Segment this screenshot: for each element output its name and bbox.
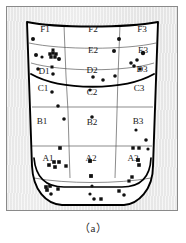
zone-label-b3: B3: [133, 116, 144, 126]
zone-label-b1: B1: [37, 116, 48, 126]
marker-square: [49, 55, 52, 58]
marker-square: [51, 66, 54, 69]
marker-dot: [141, 51, 145, 55]
marker-dot: [113, 74, 117, 78]
marker-square: [99, 197, 102, 200]
figure-caption: （a）: [0, 219, 186, 235]
marker-square: [56, 187, 59, 190]
marker-square: [131, 146, 134, 149]
marker-dot: [40, 55, 43, 58]
marker-square: [48, 184, 52, 188]
marker-square: [127, 179, 130, 182]
marker-dot: [50, 90, 54, 94]
zone-label-d2: D2: [86, 65, 98, 75]
zone-label-f2: F2: [88, 24, 98, 34]
marker-dot: [88, 88, 91, 91]
marker-dot: [49, 192, 53, 196]
marker-square: [45, 188, 49, 192]
marker-square: [130, 175, 133, 178]
marker-dot: [56, 104, 60, 108]
marker-square: [53, 165, 57, 169]
marker-dot: [132, 64, 136, 68]
marker-square: [117, 189, 120, 192]
marker-square: [57, 160, 61, 164]
diagram-stage: F1F2F3E2E3D1D2D3C1C2C3B1B2B3A1A2A3: [6, 6, 178, 211]
marker-dot: [90, 184, 93, 187]
zone-label-d1: D1: [38, 66, 50, 76]
vessel-zone-diagram: F1F2F3E2E3D1D2D3C1C2C3B1B2B3A1A2A3: [6, 6, 178, 211]
marker-square: [58, 146, 62, 150]
marker-dot: [92, 197, 96, 201]
marker-dot: [101, 78, 105, 82]
marker-dot: [34, 53, 38, 57]
marker-dot: [112, 49, 116, 53]
zone-label-d3: D3: [136, 64, 148, 74]
zone-label-c1: C1: [38, 83, 49, 93]
figure-container: F1F2F3E2E3D1D2D3C1C2C3B1B2B3A1A2A3 （a）: [0, 0, 186, 243]
zone-label-f3: F3: [137, 24, 147, 34]
marker-dot: [129, 61, 133, 65]
marker-dot: [138, 67, 142, 71]
zone-label-c2: C2: [87, 87, 98, 97]
marker-square: [137, 163, 141, 167]
zone-label-c3: C3: [134, 83, 145, 93]
marker-dot: [31, 37, 35, 41]
marker-square: [52, 160, 56, 164]
marker-square: [54, 52, 57, 55]
marker-square: [47, 163, 51, 167]
marker-square: [89, 174, 93, 178]
marker-square: [48, 52, 51, 55]
marker-square: [51, 51, 54, 54]
marker-dot: [88, 192, 91, 195]
marker-dot: [90, 115, 94, 119]
marker-dot: [57, 57, 61, 61]
marker-dot: [134, 128, 137, 131]
marker-dot: [144, 138, 148, 142]
marker-square: [53, 55, 56, 58]
zone-label-e2: E2: [88, 45, 99, 55]
marker-dot: [36, 67, 40, 71]
marker-dot: [91, 75, 95, 79]
marker-square: [64, 164, 67, 167]
marker-dot: [122, 193, 126, 197]
marker-square: [88, 159, 92, 163]
marker-dot: [117, 37, 121, 41]
marker-dot: [146, 147, 149, 150]
zone-label-f1: F1: [40, 24, 50, 34]
marker-dot: [62, 117, 66, 121]
marker-dot: [135, 58, 139, 62]
marker-square: [136, 158, 140, 162]
marker-square: [137, 146, 140, 149]
marker-dot: [51, 72, 55, 76]
marker-square: [52, 49, 55, 52]
